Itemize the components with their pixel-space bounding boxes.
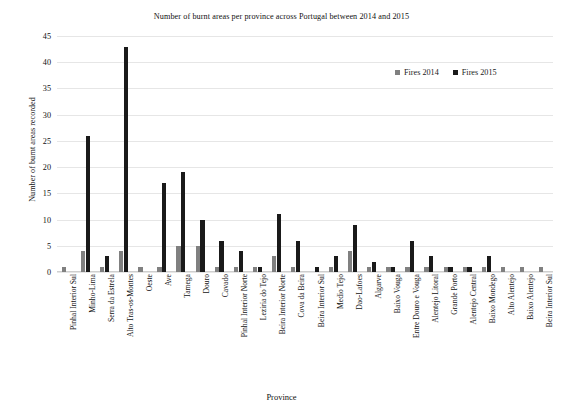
x-axis-tick-label: Minho-Lima [89, 274, 97, 313]
bar-2015 [353, 225, 357, 272]
bar-2014 [253, 267, 257, 272]
x-axis-tick-label: Pinhal Interior Sul [70, 274, 78, 330]
x-axis-tick-label: Pinhal Interior Norte [241, 274, 249, 337]
x-axis-tick-label: Entre Douro e Vouga [413, 274, 421, 338]
x-axis-tick-label: Beira Interior Sul [546, 274, 554, 327]
bar-group [534, 36, 553, 272]
bar-2015 [372, 262, 376, 272]
x-axis-tick-label: Ave [165, 274, 173, 286]
x-axis-tick-label: Alto Tras-os-Montes [127, 274, 135, 337]
bar-2015 [105, 256, 109, 272]
bar-2014 [329, 267, 333, 272]
bar-group [458, 36, 477, 272]
bar-group [191, 36, 210, 272]
x-axis-tick-label: Oeste [146, 274, 154, 291]
bar-2014 [272, 256, 276, 272]
bar-2014 [119, 251, 123, 272]
bar-2015 [315, 267, 319, 272]
bar-2015 [200, 220, 204, 272]
bar-group [76, 36, 95, 272]
y-axis-tick-label: 20 [11, 163, 51, 172]
y-axis-tick-label: 40 [11, 58, 51, 67]
bar-group [496, 36, 515, 272]
bar-2014 [62, 267, 66, 272]
bar-2014 [157, 267, 161, 272]
bar-group [286, 36, 305, 272]
bar-group [152, 36, 171, 272]
bar-2015 [467, 267, 471, 272]
bar-group [229, 36, 248, 272]
x-axis-tick-label: Dao-Lafoes [356, 274, 364, 310]
bar-2015 [429, 256, 433, 272]
bar-2015 [162, 183, 166, 272]
bar-2015 [258, 267, 262, 272]
x-axis-tick-label: Tamega [184, 274, 192, 298]
x-axis-tick-label: Grande Porto [451, 274, 459, 315]
bar-2014 [405, 267, 409, 272]
y-axis-tick-label: 30 [11, 110, 51, 119]
x-axis-tick-label: Alentejo Central [470, 274, 478, 324]
bar-2015 [219, 241, 223, 272]
bar-2015 [296, 241, 300, 272]
bar-2015 [181, 172, 185, 272]
bar-2015 [239, 251, 243, 272]
bar-2014 [291, 267, 295, 272]
bar-2014 [539, 267, 543, 272]
bar-group [57, 36, 76, 272]
y-axis-tick-label: 35 [11, 84, 51, 93]
bar-2014 [348, 251, 352, 272]
bar-2015 [86, 136, 90, 272]
x-axis-label: Province [0, 392, 563, 402]
bar-group [305, 36, 324, 272]
bar-group [171, 36, 190, 272]
bar-2015 [487, 256, 491, 272]
plot-area: 051015202530354045 [57, 36, 553, 272]
x-axis-tick-label: Cavado [222, 274, 230, 297]
x-axis-tick-label: Medio Tejo [337, 274, 345, 309]
bar-group [324, 36, 343, 272]
bar-2014 [482, 267, 486, 272]
bar-2014 [215, 267, 219, 272]
bar-group [248, 36, 267, 272]
x-axis-tick-label: Alto Alentejo [508, 274, 516, 315]
x-axis-tick-label: Baixo Vouga [394, 274, 402, 313]
bar-group [477, 36, 496, 272]
bar-2014 [234, 267, 238, 272]
bar-2014 [424, 267, 428, 272]
y-axis-tick-label: 10 [11, 215, 51, 224]
bar-2014 [520, 267, 524, 272]
chart-title: Number of burnt areas per province acros… [0, 12, 563, 21]
bar-group [133, 36, 152, 272]
bar-2014 [196, 246, 200, 272]
gridline [57, 272, 553, 273]
x-axis-tick-labels: Pinhal Interior SulMinho-LimaSerra da Es… [57, 274, 553, 392]
bar-group [400, 36, 419, 272]
bar-group [439, 36, 458, 272]
bar-group [419, 36, 438, 272]
x-axis-tick-label: Alentejo Litoral [432, 274, 440, 323]
y-axis-tick-label: 5 [11, 241, 51, 250]
bar-group [362, 36, 381, 272]
x-axis-tick-label: Beira Interior Norte [279, 274, 287, 334]
bar-2014 [463, 267, 467, 272]
bar-2015 [334, 256, 338, 272]
bar-2015 [277, 214, 281, 272]
bar-group [95, 36, 114, 272]
bar-2014 [100, 267, 104, 272]
x-axis-tick-label: Serra da Estrela [108, 274, 116, 322]
bar-group [267, 36, 286, 272]
y-axis-tick-label: 15 [11, 189, 51, 198]
chart-figure: Number of burnt areas per province acros… [0, 0, 563, 415]
bar-2014 [386, 267, 390, 272]
x-axis-tick-label: Douro [203, 274, 211, 293]
bar-2014 [138, 267, 142, 272]
bar-group [381, 36, 400, 272]
x-axis-tick-label: Cova da Beira [298, 274, 306, 317]
bar-2015 [448, 267, 452, 272]
y-axis-tick-label: 45 [11, 32, 51, 41]
x-axis-tick-label: Algarve [375, 274, 383, 298]
x-axis-tick-label: Baixo Alentejo [527, 274, 535, 320]
bar-2014 [367, 267, 371, 272]
bar-2014 [176, 246, 180, 272]
y-axis-tick-label: 25 [11, 136, 51, 145]
